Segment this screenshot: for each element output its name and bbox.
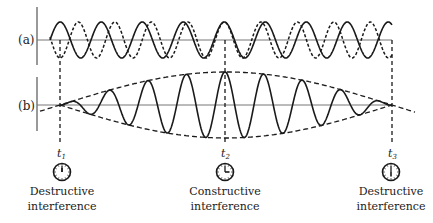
caption-t3-line1: Destructive: [359, 185, 424, 198]
envelope-upper: [40, 72, 415, 112]
caption-t1-line2: interference: [28, 200, 97, 213]
caption-t1-line1: Destructive: [30, 185, 95, 198]
panel-label-a: (a): [18, 33, 35, 47]
time-label-t3: t3: [388, 147, 397, 161]
panel-b-axes: [37, 77, 392, 131]
clock-icon-t1: [54, 164, 71, 181]
clock-icon-t3: [383, 164, 400, 181]
caption-t2-line2: interference: [191, 200, 260, 213]
caption-t3-line2: interference: [357, 200, 426, 213]
time-label-t2: t2: [221, 147, 230, 161]
marker-t1: t1 Destructive interference: [28, 147, 97, 213]
clock-icon-t2: [217, 164, 234, 181]
caption-t2-line1: Constructive: [189, 185, 260, 198]
envelope-lower: [60, 105, 392, 138]
panel-label-b: (b): [18, 99, 35, 113]
interference-diagram: (a) (b) t1 D: [0, 0, 433, 223]
diagram-canvas: (a) (b) t1 D: [0, 0, 433, 223]
marker-t2: t2 Constructive interference: [189, 147, 260, 213]
marker-t3: t3 Destructive interference: [357, 147, 426, 213]
time-label-t1: t1: [57, 147, 66, 161]
